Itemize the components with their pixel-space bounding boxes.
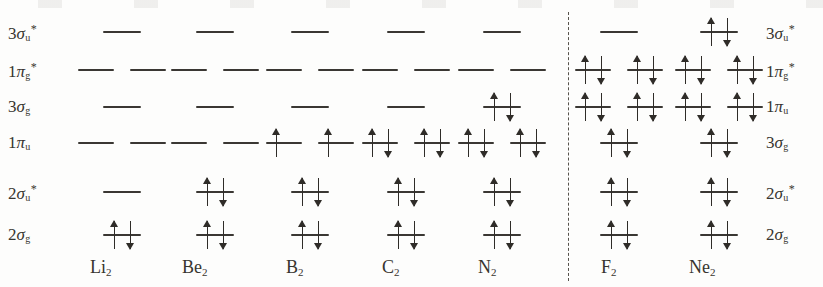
level-Be2-1πu-2 (223, 142, 259, 144)
molecule-label-N2: N2 (478, 258, 497, 278)
level-Be2-1πg*-1 (171, 69, 207, 71)
arrow-head-up (203, 220, 211, 227)
level-Ne2-1πg*-1 (675, 69, 711, 71)
level-N2-2σu* (483, 191, 521, 193)
level-C2-3σu* (387, 31, 425, 33)
arrow-head-up (420, 128, 428, 135)
arrow-head-down (314, 200, 322, 207)
arrow-head-down (410, 200, 418, 207)
orbital-label-left-6: 2σg (8, 226, 30, 244)
level-Li2-2σu* (103, 191, 141, 193)
level-Be2-2σg (196, 234, 234, 236)
level-Li2-2σg (103, 234, 141, 236)
arrow-head-down (649, 78, 657, 85)
level-C2-2σu* (387, 191, 425, 193)
level-F2-2σg (600, 234, 638, 236)
arrow-head-down (723, 151, 731, 158)
level-N2-2σg (483, 234, 521, 236)
orbital-label-left-4: 1πu (8, 134, 30, 152)
level-N2-3σg (483, 106, 521, 108)
orbital-label-right-1: 3σu* (766, 23, 795, 43)
level-F2-1πu-1 (575, 106, 611, 108)
orbital-label-right-5: 2σu* (766, 183, 795, 203)
level-Ne2-2σg (700, 234, 738, 236)
arrow-head-down (219, 200, 227, 207)
arrow-head-down (723, 40, 731, 47)
molecule-symbol: Be (182, 257, 202, 277)
molecule-symbol: N (478, 257, 491, 277)
arrow-head-down (749, 78, 757, 85)
arrow-head-up (681, 92, 689, 99)
arrow-head-up (633, 55, 641, 62)
level-Li2-3σg (103, 106, 141, 108)
arrow-head-down (723, 200, 731, 207)
arrow-head-up (707, 177, 715, 184)
arrow-head-down (506, 200, 514, 207)
level-Ne2-1πu-2 (727, 106, 763, 108)
arrow-head-up (368, 128, 376, 135)
arrow-head-down (506, 115, 514, 122)
molecule-subscript: 2 (611, 266, 617, 278)
molecule-label-Be2: Be2 (182, 258, 208, 278)
orbital-label-left-3: 3σg (8, 98, 30, 116)
arrow-head-up (707, 220, 715, 227)
molecule-subscript: 2 (394, 266, 400, 278)
orbital-label-left-1: 3σu* (8, 23, 37, 43)
arrow-head-down (697, 78, 705, 85)
arrow-head-down (314, 243, 322, 250)
arrow-head-up (203, 177, 211, 184)
orbital-label-right-3: 1πu (766, 98, 788, 116)
level-Li2-1πu-1 (78, 142, 114, 144)
level-F2-1πg*-2 (627, 69, 663, 71)
arrow-head-up (733, 92, 741, 99)
arrow-head-down (623, 243, 631, 250)
arrow-head-up (516, 128, 524, 135)
level-Ne2-2σu* (700, 191, 738, 193)
arrow-head-down (623, 151, 631, 158)
level-Li2-1πu-2 (130, 142, 166, 144)
arrow-head-down (749, 115, 757, 122)
level-C2-3σg (387, 106, 425, 108)
arrow-head-down (384, 151, 392, 158)
level-N2-1πu-1 (458, 142, 494, 144)
arrow-head-down (597, 78, 605, 85)
arrow-head-down (597, 115, 605, 122)
level-C2-2σg (387, 234, 425, 236)
arrow-head-down (723, 243, 731, 250)
level-F2-3σg (600, 142, 638, 144)
orbital-label-right-2: 1πg* (766, 61, 795, 81)
level-N2-1πg*-1 (458, 69, 494, 71)
level-B2-1πu-2 (318, 142, 354, 144)
arrow-head-up (633, 92, 641, 99)
level-F2-2σu* (600, 191, 638, 193)
arrow-head-down (649, 115, 657, 122)
molecule-subscript: 2 (710, 266, 716, 278)
molecule-symbol: Ne (689, 257, 710, 277)
arrow-head-up (681, 55, 689, 62)
arrow-head-up (490, 92, 498, 99)
arrow-head-down (436, 151, 444, 158)
arrow-head-down (697, 115, 705, 122)
level-C2-1πg*-2 (414, 69, 450, 71)
molecule-label-Li2: Li2 (90, 258, 112, 278)
molecule-symbol: Li (90, 257, 106, 277)
scan-artifact (0, 0, 823, 8)
level-Be2-3σu* (196, 31, 234, 33)
mo-energy-diagram: 3σu*1πg*3σg1πu2σu*2σg 3σu*1πg*1πu3σg2σu*… (0, 0, 823, 287)
arrow-head-down (410, 243, 418, 250)
orbital-label-right-6: 2σg (766, 226, 788, 244)
arrow-head-up (324, 128, 332, 135)
arrow-head-up (607, 128, 615, 135)
molecule-symbol: B (286, 257, 298, 277)
level-C2-1πu-2 (414, 142, 450, 144)
arrow-head-up (298, 177, 306, 184)
arrow-head-up (394, 177, 402, 184)
level-F2-3σu* (600, 31, 638, 33)
arrow-head-up (607, 177, 615, 184)
arrow-head-up (607, 220, 615, 227)
arrow-head-down (480, 151, 488, 158)
level-N2-1πu-2 (510, 142, 546, 144)
level-B2-1πg*-1 (266, 69, 302, 71)
level-B2-2σg (291, 234, 329, 236)
level-C2-1πu-1 (362, 142, 398, 144)
